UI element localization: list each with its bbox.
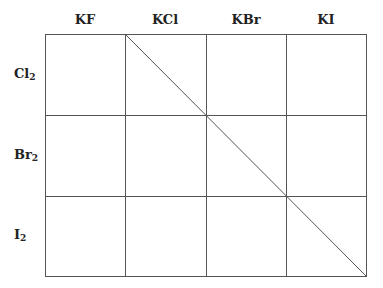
reaction-grid — [0, 0, 383, 288]
diagonal-line — [126, 35, 367, 277]
